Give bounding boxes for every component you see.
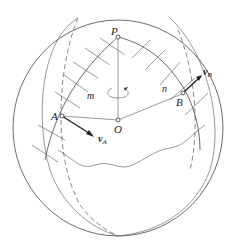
point-A: [60, 114, 64, 118]
sphere-diagram: P O A B m n vA vB: [0, 0, 247, 241]
label-m: m: [87, 90, 94, 101]
label-O: O: [114, 123, 122, 135]
label-P: P: [110, 25, 118, 37]
point-B: [181, 91, 185, 95]
point-O: [116, 118, 120, 122]
label-B: B: [176, 96, 183, 108]
label-A: A: [50, 110, 58, 122]
velocity-arrow-B: [184, 77, 200, 92]
label-vB: vB: [203, 66, 212, 79]
arc-n: [118, 37, 200, 150]
arc-m: [45, 37, 118, 160]
cut-line: [58, 125, 205, 167]
radius-OA: [62, 116, 118, 120]
meridian-right: [118, 18, 215, 236]
label-n: n: [162, 83, 167, 94]
hatching-m: [32, 38, 125, 162]
label-vA: vA: [98, 133, 107, 146]
